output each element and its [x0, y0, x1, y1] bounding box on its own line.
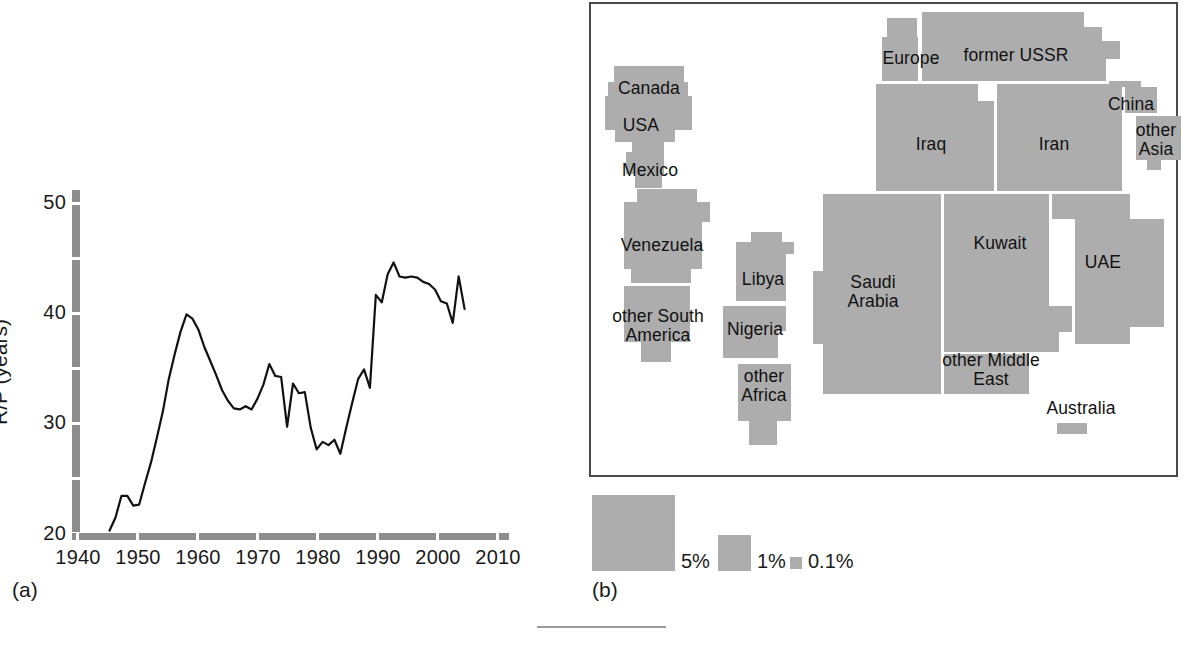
region-label-nigeria: Nigeria [727, 320, 783, 339]
legend-swatch-5-percent [592, 495, 675, 571]
region-label-other-middle-east: other Middle East [942, 351, 1040, 389]
panel-a-line-chart: 50 40 30 20 R/P (years) 1940 1950 1960 1… [0, 0, 580, 647]
region-label-other-africa: other Africa [741, 367, 786, 405]
region-label-usa: USA [623, 116, 659, 135]
region-former-ussr-shape-2 [922, 27, 1102, 41]
region-label-other-asia: other Asia [1136, 121, 1176, 159]
region-europe-shape [887, 18, 917, 37]
panel-a-caption: (a) [12, 578, 38, 602]
region-label-saudi-arabia: Saudi Arabia [847, 273, 898, 311]
region-label-libya: Libya [742, 270, 784, 289]
region-label-china: China [1108, 95, 1154, 114]
region-former-ussr-shape [922, 12, 1084, 27]
region-saudi-arabia-shape [823, 194, 941, 271]
panel-b-caption: (b) [592, 578, 618, 602]
region-libya-shape-2 [736, 242, 794, 254]
legend-swatch-1-percent [718, 535, 751, 571]
region-uae-shape-3 [1075, 327, 1130, 344]
region-label-former-ussr: former USSR [963, 46, 1068, 65]
legend-label-5-percent: 5% [681, 550, 710, 573]
region-australia-shape [1057, 423, 1087, 434]
region-label-other-south-america: other South America [612, 307, 704, 345]
region-other-asia-shape-2 [1147, 160, 1161, 170]
cartogram-frame: Canada USA Mexico Venezuela other South … [589, 2, 1178, 477]
region-mexico-shape [632, 142, 664, 152]
region-label-iran: Iran [1039, 135, 1070, 154]
region-label-europe: Europe [882, 49, 939, 68]
region-kuwait-shape-3 [944, 332, 1059, 352]
region-other-africa-shape-2 [749, 421, 777, 445]
region-label-canada: Canada [618, 79, 680, 98]
footer-divider [537, 626, 666, 628]
region-venezuela-shape [637, 189, 697, 202]
region-label-iraq: Iraq [916, 135, 947, 154]
region-libya-shape [751, 232, 782, 242]
legend-label-01-percent: 0.1% [808, 550, 854, 573]
region-label-venezuela: Venezuela [621, 236, 704, 255]
region-iraq-shape [876, 84, 978, 101]
region-label-kuwait: Kuwait [973, 234, 1026, 253]
region-kuwait-shape-2 [944, 306, 1072, 332]
region-label-australia: Australia [1047, 399, 1116, 418]
legend-swatch-01-percent [790, 557, 802, 569]
region-uae-shape [1052, 194, 1130, 219]
rp-ratio-line [110, 262, 465, 530]
region-venezuela-shape-4 [631, 269, 691, 283]
legend-label-1-percent: 1% [757, 550, 786, 573]
region-saudi-arabia-shape-3 [823, 344, 941, 394]
region-venezuela-shape-2 [624, 202, 710, 222]
region-other-south-america-shape-2 [641, 342, 671, 362]
region-uae-shape-2 [1075, 219, 1164, 327]
chart-line-series [0, 0, 580, 647]
region-label-uae: UAE [1085, 253, 1121, 272]
region-label-mexico: Mexico [622, 161, 678, 180]
